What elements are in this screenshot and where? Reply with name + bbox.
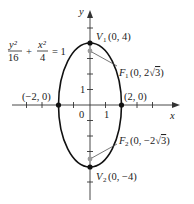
f2-leader-line [90,144,117,159]
origin-label: 0 [79,109,84,120]
right-vertex-label: (2, 0) [124,91,147,103]
equation-num1: y² [8,39,18,50]
equation-num2: x² [37,39,47,50]
svg-text:2: 2 [103,176,107,184]
svg-text:(0, 4): (0, 4) [108,31,131,43]
vertex-right-point [119,102,124,107]
vertex-v1-point [87,40,92,45]
x-axis-arrow-icon [172,102,180,108]
equation-den2: 4 [40,52,46,63]
ellipse-diagram: y x 0 1 1 y² 16 + x² 4 = 1 V 1 (0, 4) F … [0,0,194,204]
svg-text:(0, −2√3): (0, −2√3) [130,135,170,147]
v2-label: V 2 (0, −4) [96,171,137,184]
svg-text:(0, −4): (0, −4) [108,171,137,183]
v1-label: V 1 (0, 4) [96,31,131,44]
svg-text:2: 2 [125,140,129,148]
focus-f2-point [88,157,93,162]
f2-label: F 2 (0, −2√3) [118,135,170,148]
y-axis-label: y [78,6,84,17]
f1-leader-line [90,51,117,66]
equation-plus: + [26,46,32,57]
svg-text:1: 1 [103,36,107,44]
equation: y² 16 + x² 4 = 1 [8,39,66,63]
vertex-v2-point [87,164,92,169]
svg-text:1: 1 [125,72,129,80]
left-vertex-label: (−2, 0) [22,91,51,103]
y-tick-label: 1 [80,84,85,95]
x-tick-label: 1 [104,109,109,120]
equation-den1: 16 [8,52,19,63]
focus-f1-point [88,49,93,54]
x-axis-label: x [169,110,175,121]
f1-label: F 1 (0, 2√3) [118,67,164,80]
equation-rhs: = 1 [52,46,66,57]
vertex-left-point [56,102,61,107]
y-axis-arrow-icon [87,10,93,18]
svg-text:(0, 2√3): (0, 2√3) [130,67,164,79]
